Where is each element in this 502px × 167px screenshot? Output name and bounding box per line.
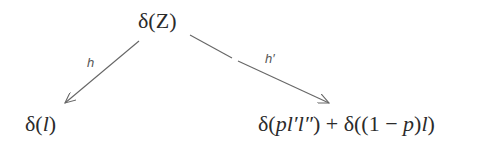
node-left-delta: δ( <box>25 111 43 136</box>
diagram-canvas: δ(Z) h h′ δ(l) δ(pl′l″) + δ((1 − p)l) <box>0 0 502 167</box>
node-left-close: ) <box>49 111 56 136</box>
edge-h-prime-label: h′ <box>265 52 275 65</box>
node-right-part-6: ) <box>428 111 435 136</box>
edge-h-label: h <box>87 56 94 69</box>
node-right: δ(pl′l″) + δ((1 − p)l) <box>258 113 435 135</box>
node-right-part-1: pl′l″ <box>276 111 313 136</box>
node-root: δ(Z) <box>138 10 176 32</box>
node-root-var: Z <box>156 8 169 33</box>
edges-layer <box>0 0 502 167</box>
node-root-delta: δ( <box>138 8 156 33</box>
edge-h-arrow <box>65 41 139 103</box>
node-root-close: ) <box>169 8 176 33</box>
node-right-part-0: δ( <box>258 111 276 136</box>
edge-h-prime-arrow-segment-1 <box>190 35 232 58</box>
edge-h-prime-arrow-segment-2 <box>238 61 329 103</box>
node-right-part-3: p <box>403 111 414 136</box>
node-right-part-2: ) + δ((1 − <box>313 111 403 136</box>
node-left: δ(l) <box>25 113 56 135</box>
